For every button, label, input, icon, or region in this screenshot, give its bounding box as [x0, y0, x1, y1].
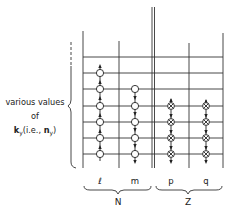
y-label-line1: various values — [5, 97, 64, 107]
crossed-circle-icon — [168, 135, 175, 142]
open-circle-icon — [131, 85, 138, 92]
y-range-brace — [68, 42, 76, 168]
open-circle-icon — [96, 134, 103, 141]
brace-icon — [68, 66, 76, 168]
open-circle-icon — [131, 150, 138, 157]
open-circle-icon — [131, 118, 138, 125]
column-p-states — [168, 98, 175, 164]
column-label-p: p — [168, 176, 173, 186]
crossed-circle-icon — [168, 119, 175, 126]
column-labels: ℓ m p q — [97, 176, 208, 186]
energy-level-diagram: various values of ky(i.e., ny) ℓ m p q N… — [0, 0, 230, 209]
group-label-z: Z — [185, 197, 191, 207]
crossed-circle-icon — [203, 151, 210, 158]
crossed-circle-icon — [203, 103, 210, 110]
column-m-states — [131, 85, 138, 164]
open-circle-icon — [96, 85, 103, 92]
crossed-circle-icon — [168, 103, 175, 110]
brace-z-icon — [156, 186, 222, 194]
column-l-states — [96, 64, 103, 161]
column-q-states — [203, 99, 210, 164]
open-circle-icon — [131, 102, 138, 109]
y-axis-label: various values of ky(i.e., ny) — [5, 97, 64, 137]
crossed-circle-icon — [168, 151, 175, 158]
column-label-q: q — [203, 176, 208, 186]
grid-lines — [83, 7, 223, 168]
open-circle-icon — [96, 69, 103, 76]
y-label-line3: ky(i.e., ny) — [14, 125, 57, 137]
crossed-circle-icon — [203, 119, 210, 126]
open-circle-icon — [96, 150, 103, 157]
group-braces — [84, 186, 222, 194]
group-labels: N Z — [115, 197, 191, 207]
open-circle-icon — [96, 118, 103, 125]
y-label-line2: of — [31, 111, 40, 121]
group-label-n: N — [115, 197, 122, 207]
open-circle-icon — [131, 134, 138, 141]
open-circle-icon — [96, 102, 103, 109]
column-label-m: m — [131, 176, 139, 186]
brace-n-icon — [84, 186, 151, 194]
crossed-circle-icon — [203, 135, 210, 142]
column-label-l: ℓ — [97, 176, 102, 186]
